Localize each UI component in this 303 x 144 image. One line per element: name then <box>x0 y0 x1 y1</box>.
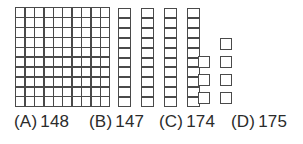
tens-rod-cell <box>141 8 154 18</box>
tens-rod-cell <box>141 77 154 87</box>
tens-rod-cell <box>164 18 177 28</box>
tens-rod-cell <box>164 48 177 58</box>
tens-rod-cell <box>141 38 154 48</box>
answer-choice-value: 148 <box>40 112 69 131</box>
answer-choice-c[interactable]: (C)174 <box>159 112 215 132</box>
tens-rod-cell <box>164 38 177 48</box>
answer-choice-a[interactable]: (A)148 <box>14 112 69 132</box>
ones-units-group <box>198 38 240 108</box>
tens-rod-cell <box>164 87 177 97</box>
tens-rod-cell <box>141 87 154 97</box>
tens-rod-cell <box>118 67 131 77</box>
tens-rod-cell <box>164 97 177 107</box>
hundreds-flat-block <box>16 8 110 107</box>
hundreds-flat-cell <box>100 96 110 107</box>
tens-rod-cell <box>164 8 177 18</box>
tens-rod-cell <box>164 28 177 38</box>
ones-unit-block <box>198 92 210 104</box>
tens-rod-cell <box>118 48 131 58</box>
tens-rod-cell <box>118 97 131 107</box>
tens-rod-cell <box>141 58 154 68</box>
tens-rod-cell <box>141 97 154 107</box>
tens-rod-block <box>118 8 131 107</box>
answer-choice-list: (A)148(B)147(C)174(D)175 <box>0 112 303 144</box>
tens-rod-cell <box>118 58 131 68</box>
ones-unit-block <box>220 92 232 104</box>
ones-unit-block <box>220 56 232 68</box>
ones-unit-block <box>198 56 210 68</box>
tens-rod-cell <box>187 18 200 28</box>
tens-rod-cell <box>141 48 154 58</box>
answer-choice-value: 174 <box>186 112 215 131</box>
ones-unit-block <box>220 74 232 86</box>
question-figure-page: (A)148(B)147(C)174(D)175 <box>0 0 303 144</box>
tens-rod-block <box>164 8 177 107</box>
tens-rod-cell <box>118 77 131 87</box>
answer-choice-value: 147 <box>115 112 144 131</box>
tens-rod-block <box>141 8 154 107</box>
tens-rod-cell <box>164 77 177 87</box>
answer-choice-label: (D) <box>231 112 255 131</box>
tens-rod-cell <box>118 18 131 28</box>
answer-choice-label: (A) <box>14 112 37 131</box>
tens-rod-cell <box>187 8 200 18</box>
answer-choice-label: (B) <box>89 112 112 131</box>
answer-choice-label: (C) <box>159 112 183 131</box>
ones-unit-block <box>198 74 210 86</box>
tens-rod-cell <box>118 87 131 97</box>
tens-rod-cell <box>141 28 154 38</box>
tens-rod-cell <box>118 8 131 18</box>
tens-rod-cell <box>141 18 154 28</box>
tens-rod-cell <box>164 58 177 68</box>
tens-rod-cell <box>118 38 131 48</box>
ones-unit-block <box>220 38 232 50</box>
answer-choice-b[interactable]: (B)147 <box>89 112 144 132</box>
tens-rod-cell <box>187 28 200 38</box>
tens-rod-cell <box>164 67 177 77</box>
answer-choice-d[interactable]: (D)175 <box>231 112 287 132</box>
tens-rod-cell <box>141 67 154 77</box>
tens-rod-cell <box>118 28 131 38</box>
answer-choice-value: 175 <box>258 112 287 131</box>
